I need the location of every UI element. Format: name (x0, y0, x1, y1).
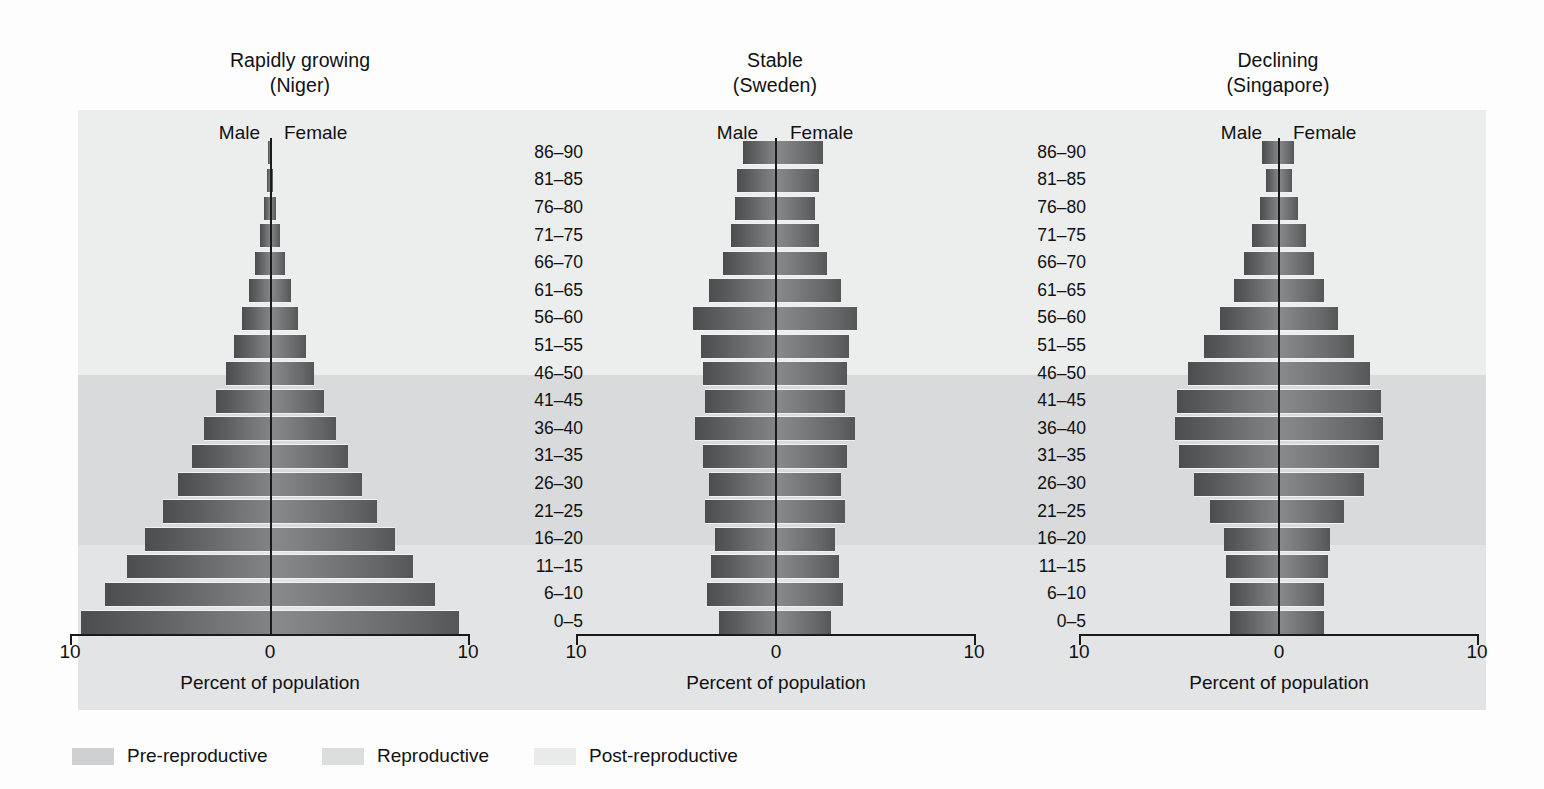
x-ticklabel-singapore-left: 10 (1049, 641, 1109, 663)
bar-niger-male-71-75 (260, 223, 270, 248)
bar-singapore-female-81-85 (1278, 168, 1292, 193)
bar-sweden-male-61-65 (709, 278, 775, 303)
bar-niger-female-21-25 (270, 499, 377, 524)
x-ticklabel-sweden-right: 10 (944, 641, 1004, 663)
age-label-right-81-85: 81–85 (990, 168, 1086, 190)
age-label-left-56-60: 56–60 (487, 306, 583, 328)
bar-sweden-female-6-10 (775, 582, 843, 607)
bar-sweden-female-51-55 (775, 334, 849, 359)
center-axis-niger (270, 138, 272, 636)
age-label-right-21-25: 21–25 (990, 500, 1086, 522)
bar-singapore-male-21-25 (1210, 499, 1278, 524)
bar-sweden-female-21-25 (775, 499, 845, 524)
bar-singapore-male-56-60 (1220, 306, 1278, 331)
age-label-right-26-30: 26–30 (990, 472, 1086, 494)
bar-singapore-female-86-90 (1278, 140, 1294, 165)
age-label-left-16-20: 16–20 (487, 527, 583, 549)
x-ticklabel-singapore-right: 10 (1447, 641, 1507, 663)
bar-singapore-female-6-10 (1278, 582, 1324, 607)
bar-singapore-female-26-30 (1278, 472, 1364, 497)
x-axis-title-sweden: Percent of population (616, 672, 936, 694)
bar-singapore-male-76-80 (1260, 196, 1278, 221)
bar-singapore-male-11-15 (1226, 554, 1278, 579)
bar-sweden-male-86-90 (743, 140, 775, 165)
legend-swatch-post-reproductive (534, 748, 576, 765)
bar-niger-female-6-10 (270, 582, 435, 607)
bar-niger-male-41-45 (216, 389, 270, 414)
panel-title-sweden: Stable (Sweden) (605, 48, 945, 98)
bar-niger-female-16-20 (270, 527, 395, 552)
bar-singapore-female-31-35 (1278, 444, 1379, 469)
bar-sweden-male-16-20 (715, 527, 775, 552)
bar-singapore-male-0-5 (1230, 610, 1278, 635)
bar-sweden-male-41-45 (705, 389, 775, 414)
age-label-column-left: 86–9081–8576–8071–7566–7061–6556–6051–55… (487, 138, 583, 636)
age-label-right-61-65: 61–65 (990, 279, 1086, 301)
age-label-left-31-35: 31–35 (487, 444, 583, 466)
age-label-left-36-40: 36–40 (487, 417, 583, 439)
bar-sweden-female-56-60 (775, 306, 857, 331)
x-ticklabel-singapore-center: 0 (1249, 641, 1309, 663)
bar-niger-female-11-15 (270, 554, 413, 579)
bar-singapore-male-16-20 (1224, 527, 1278, 552)
bar-singapore-female-11-15 (1278, 554, 1328, 579)
age-label-left-26-30: 26–30 (487, 472, 583, 494)
age-label-left-21-25: 21–25 (487, 500, 583, 522)
bar-singapore-female-56-60 (1278, 306, 1338, 331)
bar-singapore-female-66-70 (1278, 251, 1314, 276)
bar-singapore-male-61-65 (1234, 278, 1278, 303)
panel-title-singapore: Declining (Singapore) (1108, 48, 1448, 98)
x-ticklabel-niger-center: 0 (240, 641, 300, 663)
bar-niger-male-66-70 (255, 251, 270, 276)
age-label-right-86-90: 86–90 (990, 141, 1086, 163)
age-label-right-36-40: 36–40 (990, 417, 1086, 439)
x-axis-sweden (576, 634, 976, 636)
bar-sweden-female-41-45 (775, 389, 845, 414)
bar-niger-female-61-65 (270, 278, 291, 303)
age-label-right-41-45: 41–45 (990, 389, 1086, 411)
bar-niger-male-56-60 (242, 306, 270, 331)
bar-singapore-male-86-90 (1262, 140, 1278, 165)
bar-sweden-male-26-30 (709, 472, 775, 497)
x-ticklabel-niger-left: 10 (40, 641, 100, 663)
age-label-left-41-45: 41–45 (487, 389, 583, 411)
bar-singapore-female-16-20 (1278, 527, 1330, 552)
bar-singapore-female-46-50 (1278, 361, 1370, 386)
bar-sweden-male-66-70 (723, 251, 775, 276)
bar-singapore-female-21-25 (1278, 499, 1344, 524)
bar-singapore-male-36-40 (1175, 416, 1278, 441)
age-label-right-51-55: 51–55 (990, 334, 1086, 356)
bar-singapore-male-81-85 (1266, 168, 1278, 193)
x-ticklabel-sweden-left: 10 (546, 641, 606, 663)
x-axis-title-singapore: Percent of population (1119, 672, 1439, 694)
bar-niger-male-51-55 (234, 334, 270, 359)
center-axis-sweden (775, 138, 777, 636)
legend-label-reproductive: Reproductive (377, 745, 489, 767)
panel-title-sweden-line1: Stable (747, 49, 803, 71)
bar-niger-female-0-5 (270, 610, 459, 635)
bar-sweden-male-31-35 (703, 444, 775, 469)
panel-title-singapore-line1: Declining (1237, 49, 1318, 71)
bar-niger-male-46-50 (226, 361, 270, 386)
age-label-left-81-85: 81–85 (487, 168, 583, 190)
bar-sweden-female-76-80 (775, 196, 815, 221)
age-label-right-0-5: 0–5 (990, 610, 1086, 632)
age-label-left-6-10: 6–10 (487, 582, 583, 604)
bar-singapore-female-76-80 (1278, 196, 1298, 221)
bar-sweden-female-66-70 (775, 251, 827, 276)
pyramid-singapore (1078, 138, 1478, 636)
bar-singapore-male-6-10 (1230, 582, 1278, 607)
figure-root: Rapidly growing (Niger) Stable (Sweden) … (0, 0, 1544, 789)
age-label-left-0-5: 0–5 (487, 610, 583, 632)
x-axis-singapore (1079, 634, 1479, 636)
age-label-left-51-55: 51–55 (487, 334, 583, 356)
bar-singapore-male-31-35 (1179, 444, 1279, 469)
x-ticklabel-niger-right: 10 (438, 641, 498, 663)
age-label-left-86-90: 86–90 (487, 141, 583, 163)
age-label-right-11-15: 11–15 (990, 555, 1086, 577)
bar-sweden-female-81-85 (775, 168, 819, 193)
age-label-right-46-50: 46–50 (990, 362, 1086, 384)
bar-sweden-male-21-25 (705, 499, 775, 524)
bar-sweden-female-0-5 (775, 610, 831, 635)
age-label-left-11-15: 11–15 (487, 555, 583, 577)
